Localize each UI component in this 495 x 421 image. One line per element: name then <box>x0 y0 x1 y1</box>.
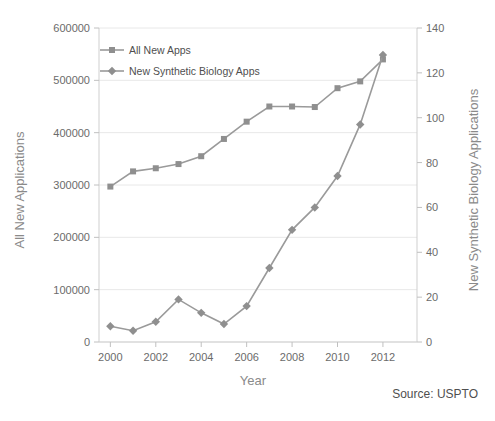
left-axis-tick-label: 300000 <box>53 179 90 191</box>
data-point-marker-square <box>266 104 272 110</box>
left-axis-tick-label: 600000 <box>53 22 90 34</box>
right-axis-tick-label: 120 <box>426 67 444 79</box>
left-axis-tick-label: 100000 <box>53 284 90 296</box>
y2-axis-title: New Synthetic Biology Applications <box>466 88 481 291</box>
data-point-marker-square <box>289 104 295 110</box>
left-axis-tick-label: 400000 <box>53 127 90 139</box>
left-axis-tick-label: 200000 <box>53 231 90 243</box>
data-point-marker-square <box>221 136 227 142</box>
x-axis-tick-label: 2002 <box>144 351 168 363</box>
data-point-marker-square <box>130 168 136 174</box>
right-axis-tick-label: 140 <box>426 22 444 34</box>
legend-item-label: All New Apps <box>129 44 191 56</box>
x-axis-tick-label: 2004 <box>189 351 213 363</box>
right-axis-tick-label: 60 <box>426 201 438 213</box>
left-axis-tick-label: 500000 <box>53 74 90 86</box>
right-axis-tick-label: 40 <box>426 246 438 258</box>
x-axis-tick-label: 2012 <box>371 351 395 363</box>
right-axis-tick-label: 100 <box>426 112 444 124</box>
data-point-marker-square-legend <box>109 47 115 53</box>
data-point-marker-square <box>357 78 363 84</box>
x-axis-tick-label: 2006 <box>234 351 258 363</box>
data-point-marker-square <box>198 153 204 159</box>
right-axis-tick-label: 80 <box>426 157 438 169</box>
x-axis-tick-label: 2008 <box>280 351 304 363</box>
right-axis-tick-label: 0 <box>426 336 432 348</box>
source-annotation: Source: USPTO <box>392 387 478 401</box>
x-axis-tick-label: 2000 <box>98 351 122 363</box>
data-point-marker-square <box>312 104 318 110</box>
chart-figure: 0100000200000300000400000500000600000 02… <box>0 0 495 421</box>
data-point-marker-square <box>176 161 182 167</box>
x-axis-tick-label: 2010 <box>325 351 349 363</box>
data-point-marker-square <box>244 119 250 125</box>
right-axis-tick-label: 20 <box>426 291 438 303</box>
data-point-marker-square <box>335 85 341 91</box>
data-point-marker-square <box>153 165 159 171</box>
data-point-marker-square <box>107 184 113 190</box>
left-axis-tick-label: 0 <box>84 336 90 348</box>
y-axis-title: All New Applications <box>12 131 27 249</box>
legend-item-label: New Synthetic Biology Apps <box>129 65 260 77</box>
x-axis-title: Year <box>240 373 267 388</box>
chart-container: 0100000200000300000400000500000600000 02… <box>0 0 495 421</box>
